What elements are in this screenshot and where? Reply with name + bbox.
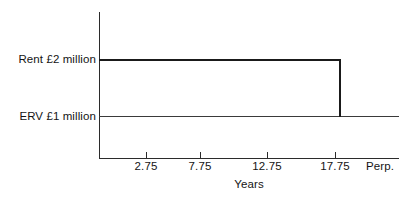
x-tick-label-1: 2.75	[135, 160, 158, 172]
erv-reference-line	[99, 116, 399, 117]
x-tick-label-perp: Perp.	[366, 160, 394, 172]
rent-erv-step-chart: Rent £2 million ERV £1 million 2.75 7.75…	[0, 0, 409, 201]
y-axis-line	[99, 12, 100, 159]
x-tick-mark-4	[335, 152, 336, 158]
rent-step-line-drop	[339, 59, 341, 117]
x-tick-mark-3	[267, 152, 268, 158]
x-tick-label-3: 12.75	[252, 160, 281, 172]
x-axis-title: Years	[234, 178, 264, 190]
x-tick-mark-2	[200, 152, 201, 158]
rent-value-label: Rent £2 million	[18, 53, 96, 65]
rent-step-line-horizontal	[99, 59, 341, 61]
x-tick-label-4: 17.75	[320, 160, 349, 172]
x-tick-label-2: 7.75	[189, 160, 212, 172]
x-tick-mark-1	[146, 152, 147, 158]
erv-value-label: ERV £1 million	[19, 110, 96, 122]
x-axis-line	[99, 158, 399, 159]
